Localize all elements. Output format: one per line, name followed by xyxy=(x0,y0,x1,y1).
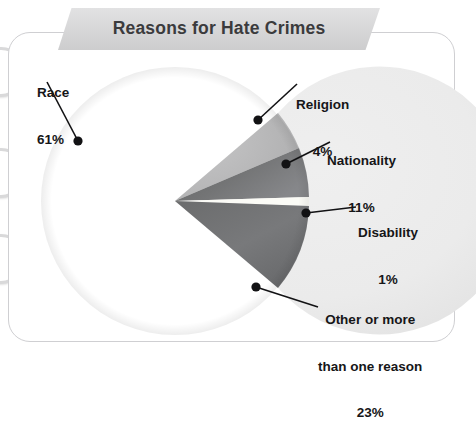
leader-dot-race xyxy=(73,136,82,145)
slice-label-race-name: Race xyxy=(37,85,69,101)
slice-label-race-value: 61% xyxy=(37,132,69,148)
slice-label-other-name-line1: Other or more xyxy=(318,312,422,328)
slice-label-nationality-name: Nationality xyxy=(327,153,396,169)
slice-label-other-name-line2: than one reason xyxy=(318,359,422,375)
slice-label-other: Other or more than one reason 23% xyxy=(318,281,422,421)
leader-dot-nationality xyxy=(281,159,290,168)
leader-dot-other xyxy=(251,282,260,291)
slice-label-race: Race 61% xyxy=(37,54,69,178)
leader-dot-disability xyxy=(301,208,310,217)
slice-label-disability-name: Disability xyxy=(358,225,418,241)
pie-rim-shade xyxy=(41,67,309,335)
slice-label-religion-name: Religion xyxy=(296,97,349,113)
slice-label-other-value: 23% xyxy=(318,405,422,421)
leader-dot-religion xyxy=(253,115,262,124)
